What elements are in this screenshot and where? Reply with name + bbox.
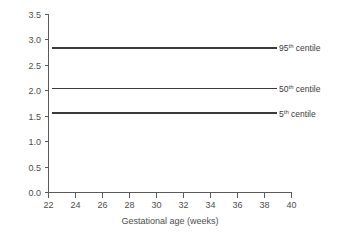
x-tick-label-36: 36 (232, 200, 242, 210)
x-tick-label-24: 24 (70, 200, 80, 210)
y-tick-label-1.0: 1.0 (28, 137, 41, 147)
y-axis-tick-labels: 3.5 3.0 2.5 2.0 1.5 1.0 0.5 0.0 (28, 10, 41, 198)
series-label-5th-centile: 5th centile (279, 109, 316, 119)
series-label-95th-suffix: centile (293, 43, 320, 53)
x-tick-label-34: 34 (205, 200, 215, 210)
y-tick-label-3.0: 3.0 (28, 35, 41, 45)
series-label-50th-suffix: centile (293, 84, 320, 94)
y-tick-label-1.5: 1.5 (28, 112, 41, 122)
series-label-50th-prefix: 50 (279, 84, 289, 94)
x-tick-label-22: 22 (43, 200, 53, 210)
svg-text:50th centile: 50th centile (279, 84, 321, 94)
y-tick-label-2.5: 2.5 (28, 61, 41, 71)
y-axis-ticks (45, 15, 49, 193)
x-tick-label-28: 28 (124, 200, 134, 210)
series-label-5th-suffix: centile (289, 109, 316, 119)
svg-text:5th centile: 5th centile (279, 109, 316, 119)
y-tick-label-0.5: 0.5 (28, 163, 41, 173)
svg-text:95th centile: 95th centile (279, 43, 321, 53)
x-tick-label-40: 40 (286, 200, 296, 210)
series-label-50th-centile: 50th centile (279, 84, 321, 94)
centile-chart: 3.5 3.0 2.5 2.0 1.5 1.0 0.5 0.0 22 24 (0, 0, 343, 236)
x-tick-label-26: 26 (97, 200, 107, 210)
y-tick-label-3.5: 3.5 (28, 10, 41, 20)
x-axis-tick-labels: 22 24 26 28 30 32 34 36 38 40 (43, 200, 296, 210)
chart-canvas: 3.5 3.0 2.5 2.0 1.5 1.0 0.5 0.0 22 24 (0, 0, 343, 236)
x-axis-ticks (49, 193, 292, 198)
series-label-95th-prefix: 95 (279, 43, 289, 53)
x-tick-label-38: 38 (259, 200, 269, 210)
y-tick-label-2.0: 2.0 (28, 86, 41, 96)
series-label-95th-centile: 95th centile (279, 43, 321, 53)
y-tick-label-0.0: 0.0 (28, 188, 41, 198)
x-tick-label-30: 30 (151, 200, 161, 210)
x-axis-title: Gestational age (weeks) (121, 216, 218, 226)
x-tick-label-32: 32 (178, 200, 188, 210)
